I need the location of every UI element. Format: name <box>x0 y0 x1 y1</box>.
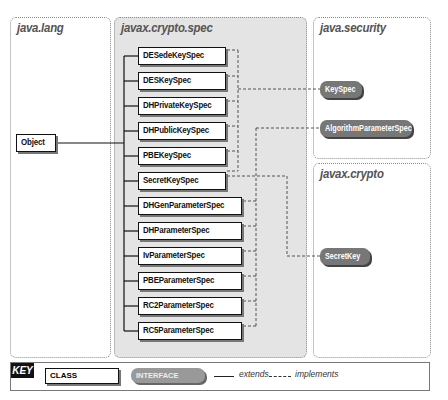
interface-label: SecretKey <box>325 248 360 265</box>
class-pbekeyspec[interactable]: PBEKeySpec <box>138 147 226 165</box>
class-label: PBEKeySpec <box>143 148 191 163</box>
class-dhpublickeyspec[interactable]: DHPublicKeySpec <box>138 122 226 140</box>
class-label: SecretKeySpec <box>143 173 198 188</box>
class-label: DHParameterSpec <box>143 223 209 238</box>
class-object[interactable]: Object <box>16 134 56 152</box>
legend-class-swatch: CLASS <box>45 368 119 384</box>
class-label: IvParameterSpec <box>143 248 205 263</box>
class-label: DESedeKeySpec <box>143 48 204 63</box>
class-pbeparameterspec[interactable]: PBEParameterSpec <box>138 272 242 290</box>
class-label: DHPrivateKeySpec <box>143 98 212 113</box>
class-label: Object <box>21 135 45 150</box>
class-label: PBEParameterSpec <box>143 273 214 288</box>
class-label: DHGenParameterSpec <box>143 198 224 213</box>
legend: KEY CLASS INTERFACE extends implements <box>10 362 430 391</box>
class-label: RC5ParameterSpec <box>143 323 214 338</box>
legend-extends-line <box>214 376 234 377</box>
class-ivparameterspec[interactable]: IvParameterSpec <box>138 247 242 265</box>
class-rc5parameterspec[interactable]: RC5ParameterSpec <box>138 322 242 340</box>
class-dhprivatekeyspec[interactable]: DHPrivateKeySpec <box>138 97 226 115</box>
interface-label: KeySpec <box>325 81 356 98</box>
legend-extends-label: extends <box>239 369 269 379</box>
legend-implements-label: implements <box>295 369 338 379</box>
legend-title: KEY <box>11 363 34 378</box>
legend-interface-swatch: INTERFACE <box>131 368 205 383</box>
class-rc2parameterspec[interactable]: RC2ParameterSpec <box>138 297 242 315</box>
interface-label: AlgorithmParameterSpec <box>325 120 412 137</box>
class-label: DHPublicKeySpec <box>143 123 209 138</box>
class-label: RC2ParameterSpec <box>143 298 214 313</box>
class-secretkeyspec[interactable]: SecretKeySpec <box>138 172 226 190</box>
interface-secretkey[interactable]: SecretKey <box>320 248 370 265</box>
class-desedekeyspec[interactable]: DESedeKeySpec <box>138 47 226 65</box>
class-deskeyspec[interactable]: DESKeySpec <box>138 72 226 90</box>
class-dhparameterspec[interactable]: DHParameterSpec <box>138 222 242 240</box>
interface-keyspec[interactable]: KeySpec <box>320 81 362 98</box>
class-label: DESKeySpec <box>143 73 191 88</box>
interface-algorithmparameterspec[interactable]: AlgorithmParameterSpec <box>320 120 412 137</box>
legend-implements-line <box>269 376 291 377</box>
class-dhgenparameterspec[interactable]: DHGenParameterSpec <box>138 197 242 215</box>
